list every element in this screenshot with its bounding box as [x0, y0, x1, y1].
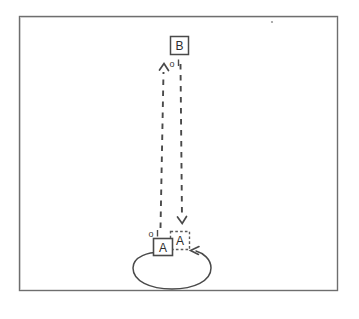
marker-top-label: o	[169, 59, 174, 69]
edge-b-to-a	[178, 64, 187, 224]
node-b[interactable]: B	[171, 37, 189, 55]
node-a-prime-label: A	[176, 234, 184, 248]
node-a-prime[interactable]: A	[171, 232, 190, 250]
node-a[interactable]: A	[154, 239, 173, 256]
diagram-svg: B A A o o	[0, 0, 359, 319]
marker-bottom-label: o	[148, 229, 153, 239]
arrowhead-down-icon	[178, 217, 187, 224]
node-b-label: B	[175, 39, 183, 53]
figure-canvas: B A A o o	[0, 0, 359, 319]
node-a-label: A	[159, 241, 167, 255]
marker-bottom: o	[148, 229, 157, 239]
edge-a-to-b	[160, 64, 169, 229]
arrowhead-up-icon	[160, 64, 169, 71]
marker-top: o	[169, 59, 178, 69]
arrowhead-loop-icon	[191, 247, 200, 255]
scan-speck	[271, 21, 273, 23]
